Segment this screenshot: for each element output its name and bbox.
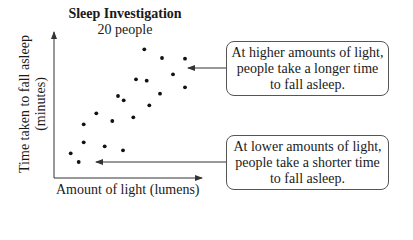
- callout-low-light: At lower amounts of light, people take a…: [226, 135, 389, 190]
- data-point: [122, 98, 126, 102]
- data-point: [121, 148, 125, 152]
- callout-high-line2: people take a longer time: [227, 61, 388, 77]
- x-axis-label: Amount of light (lumens): [56, 182, 200, 198]
- data-point: [160, 56, 164, 60]
- callout-low-line1: At lower amounts of light,: [227, 139, 388, 155]
- data-point: [142, 47, 146, 51]
- callout-high-line1: At higher amounts of light,: [227, 45, 388, 61]
- data-point: [131, 115, 135, 119]
- data-point: [147, 103, 151, 107]
- y-axis-label-line2: (minutes): [33, 35, 49, 173]
- data-point: [145, 79, 149, 83]
- data-point: [82, 122, 86, 126]
- data-point: [110, 119, 114, 123]
- data-point: [82, 140, 86, 144]
- data-point: [183, 57, 187, 61]
- data-point: [116, 94, 120, 98]
- data-point: [171, 72, 175, 76]
- data-point: [77, 160, 81, 164]
- callout-high-line3: to fall asleep.: [227, 77, 388, 93]
- data-point: [69, 151, 73, 155]
- callout-high-light: At higher amounts of light, people take …: [226, 41, 389, 96]
- callout-low-line2: people take a shorter time: [227, 155, 388, 171]
- data-points: [69, 47, 187, 164]
- data-point: [158, 92, 162, 96]
- y-axis-label-line1: Time taken to fall asleep: [17, 35, 33, 173]
- callout-low-line3: to fall asleep.: [227, 171, 388, 187]
- data-point: [183, 85, 187, 89]
- data-point: [134, 77, 138, 81]
- data-point: [103, 144, 107, 148]
- data-point: [94, 111, 98, 115]
